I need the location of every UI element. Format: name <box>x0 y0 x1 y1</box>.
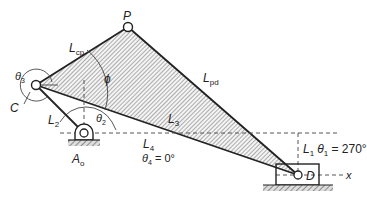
linkage-diagram: P C Ao D Lcp Lpd L2 L3 L4 L1θ1 = 270° θ3… <box>0 0 367 206</box>
label-P: P <box>123 9 131 23</box>
ground-pivot-A0 <box>68 124 100 146</box>
label-D: D <box>306 169 315 183</box>
label-C: C <box>10 101 19 115</box>
label-theta3: θ3 <box>15 70 25 84</box>
label-phi: ϕ <box>104 72 111 86</box>
label-x-axis: x <box>345 169 352 181</box>
label-L2: L2 <box>48 113 60 129</box>
label-L4: L4 <box>143 137 155 153</box>
label-Lcp: Lcp <box>69 41 85 57</box>
label-theta2: θ2 <box>96 112 106 126</box>
joint-C <box>32 81 41 90</box>
label-theta4: θ4 = 0° <box>142 152 175 166</box>
joint-P <box>124 23 133 32</box>
label-A0: Ao <box>71 152 85 168</box>
label-L1-theta1: L1θ1 = 270° <box>303 142 367 158</box>
label-Lpd: Lpd <box>203 71 219 87</box>
